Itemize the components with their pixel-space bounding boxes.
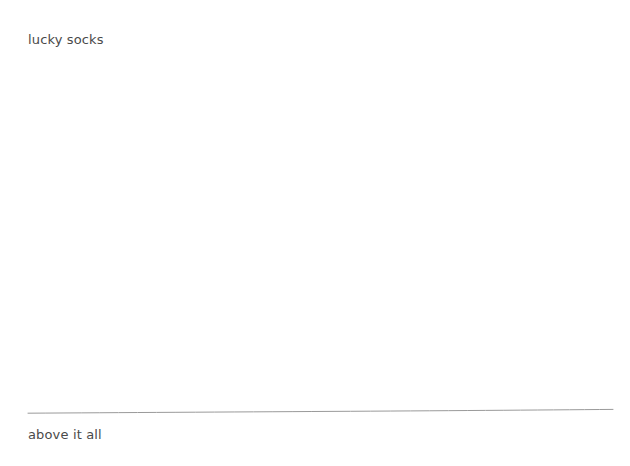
bottom-caption: above it all: [28, 428, 102, 441]
horizon-line-container: [0, 400, 630, 426]
page-canvas: lucky socks above it all: [0, 0, 630, 466]
horizon-line-icon: [0, 400, 630, 426]
top-caption: lucky socks: [28, 33, 104, 46]
horizon-line-path: [28, 409, 613, 413]
